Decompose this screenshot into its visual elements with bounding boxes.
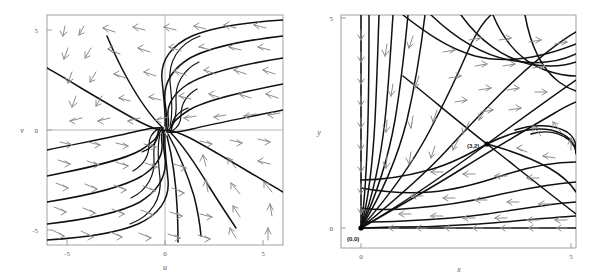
left-phase-portrait-panel: 5 0 -5 -5 0 5 u v xyxy=(0,0,303,277)
phase-portrait-figure: 5 0 -5 -5 0 5 u v xyxy=(0,0,606,277)
left-xtick-0: 0 xyxy=(163,250,167,258)
left-ytick-5: 5 xyxy=(35,27,39,35)
left-direction-arrows xyxy=(52,22,280,242)
left-xtick-neg5: -5 xyxy=(64,250,70,258)
right-ytick-0: 0 xyxy=(330,225,334,233)
equilibrium-dot-origin xyxy=(358,225,363,230)
equilibrium-dot-saddle xyxy=(484,141,489,146)
left-x-axis-label: u xyxy=(163,263,167,272)
right-xtick-0: 0 xyxy=(359,253,363,261)
left-xtick-5: 5 xyxy=(261,250,265,258)
left-ytick-neg5: -5 xyxy=(32,227,38,235)
right-ytick-5: 5 xyxy=(330,15,334,23)
equilibrium-label-3-2: (3,2) xyxy=(467,143,479,149)
left-ytick-0: 0 xyxy=(35,127,39,135)
right-phase-portrait-svg: (3,2) (0,0) 5 0 0 5 x y xyxy=(303,0,606,277)
left-y-axis-label: v xyxy=(20,126,24,135)
left-phase-portrait-svg: 5 0 -5 -5 0 5 u v xyxy=(0,0,303,277)
right-y-axis-label: y xyxy=(316,128,321,137)
right-x-axis-label: x xyxy=(456,265,461,274)
right-phase-portrait-panel: (3,2) (0,0) 5 0 0 5 x y xyxy=(303,0,606,277)
right-trajectories xyxy=(361,15,576,228)
equilibrium-label-0-0: (0,0) xyxy=(347,236,359,242)
right-xtick-5: 5 xyxy=(569,253,573,261)
